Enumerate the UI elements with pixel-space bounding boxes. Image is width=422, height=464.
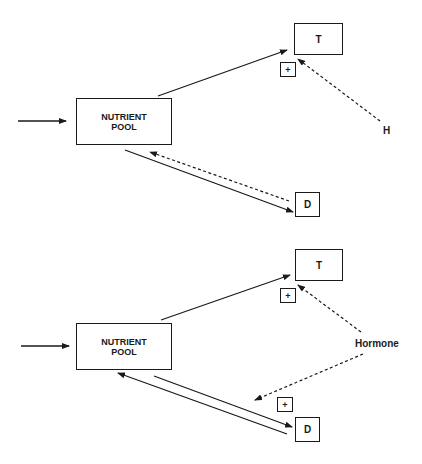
plus-label: + [282,400,287,410]
d-to-pool-arrow [118,373,287,434]
plus-label: + [285,291,290,301]
bottom-d-plus-sign: + [277,397,293,412]
pool-to-d-arrow [154,376,292,427]
diagram-arrows [0,0,422,464]
pool-to-t-arrow [158,50,287,96]
diagram-canvas: NUTRIENT POOL T + D H NUTRIENT POOL T + … [0,0,422,464]
top-h-label: H [383,125,390,136]
top-t-plus-sign: + [280,62,296,77]
top-d-box: D [295,192,320,217]
pool-to-t-arrow [161,275,290,320]
hormone-to-d-dashed-arrow [255,354,363,400]
d-label: D [304,199,311,210]
bottom-t-box: T [295,249,343,281]
h-to-t-dashed-arrow [298,59,380,121]
plus-label: + [285,65,290,75]
pool-label-line2: POOL [101,347,147,357]
pool-label-line2: POOL [101,122,147,132]
pool-to-d-arrow [125,150,293,212]
pool-label-line1: NUTRIENT [101,112,147,122]
d-to-pool-dashed-arrow [150,152,289,201]
t-label: T [315,34,321,45]
hormone-to-t-dashed-arrow [298,285,361,332]
bottom-d-box: D [295,417,320,442]
bottom-nutrient-pool-box: NUTRIENT POOL [76,323,172,370]
d-label: D [304,424,311,435]
bottom-t-plus-sign: + [280,288,296,303]
top-diagram-arrows [18,50,380,212]
bottom-diagram-arrows [21,275,363,434]
hormone-label: Hormone [355,338,399,349]
top-nutrient-pool-box: NUTRIENT POOL [76,98,172,145]
t-label: T [316,260,322,271]
pool-label-line1: NUTRIENT [101,337,147,347]
top-t-box: T [294,23,343,55]
